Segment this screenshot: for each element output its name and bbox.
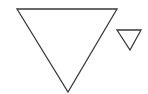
small-inverted-triangle bbox=[117, 30, 141, 50]
diagram-canvas bbox=[0, 0, 148, 94]
large-inverted-triangle bbox=[17, 9, 117, 92]
